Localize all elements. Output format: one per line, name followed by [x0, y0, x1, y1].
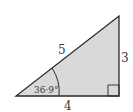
angle-label: 36·9° — [34, 85, 59, 95]
triangle-diagram: 5 3 4 36·9° — [0, 0, 133, 112]
hypotenuse-label: 5 — [58, 43, 66, 57]
opposite-label: 3 — [121, 51, 129, 65]
adjacent-label: 4 — [64, 99, 72, 112]
triangle-shape — [16, 16, 119, 96]
